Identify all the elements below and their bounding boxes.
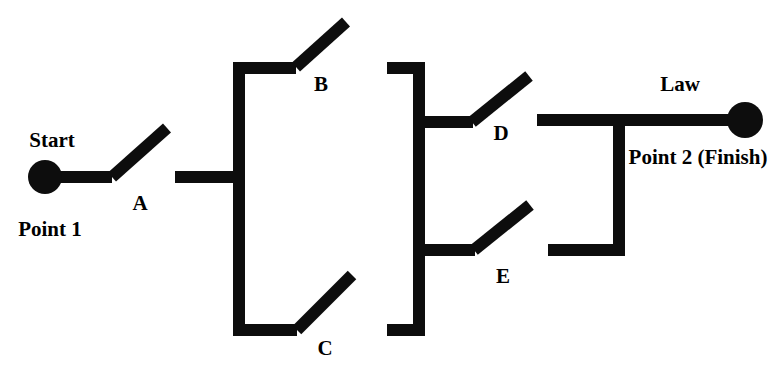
switch-blade-b[interactable] (296, 22, 346, 67)
switch-label-e: E (496, 266, 510, 287)
start-terminal[interactable] (28, 160, 62, 194)
switch-blade-d[interactable] (472, 76, 529, 122)
law-label: Law (660, 74, 700, 95)
point1-label: Point 1 (18, 219, 82, 240)
start-label: Start (29, 130, 75, 151)
switch-blade-e[interactable] (474, 205, 530, 250)
switch-label-d: D (493, 123, 508, 144)
switch-label-c: C (317, 338, 332, 359)
switch-blade-c[interactable] (297, 275, 352, 330)
finish-terminal[interactable] (727, 102, 763, 138)
switch-blades-group (112, 22, 530, 330)
wires-group (45, 62, 745, 336)
circuit-schematic (0, 0, 782, 371)
point2-finish-label: Point 2 (Finish) (629, 147, 768, 168)
switch-label-a: A (132, 193, 147, 214)
switch-blade-a[interactable] (112, 128, 167, 177)
switch-label-b: B (314, 74, 328, 95)
switch-diagram-canvas: Start Point 1 Law Point 2 (Finish) ABCDE (0, 0, 782, 371)
